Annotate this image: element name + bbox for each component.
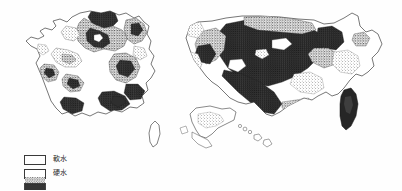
hawaii-inset [238, 124, 272, 147]
usa-map-svg [168, 4, 400, 154]
water-hardness-figure: 軟水 硬水 [0, 0, 402, 190]
alaska-inset [180, 106, 236, 148]
legend-swatch-third [24, 183, 46, 191]
legend-item-soft-water: 軟水 [24, 154, 164, 165]
map-france [18, 4, 168, 152]
map-legend: 軟水 硬水 [24, 154, 164, 190]
legend-item-hard-water: 硬水 [24, 168, 164, 179]
legend-label-soft-water: 軟水 [53, 155, 67, 164]
map-usa [168, 4, 400, 154]
legend-swatch-hard-water [24, 169, 46, 179]
france-map-svg [18, 4, 168, 152]
legend-swatch-soft-water [24, 155, 46, 165]
legend-item-third [24, 182, 164, 190]
corsica-island [149, 121, 160, 147]
legend-label-hard-water: 硬水 [53, 169, 67, 178]
florida-peninsula [340, 88, 358, 130]
